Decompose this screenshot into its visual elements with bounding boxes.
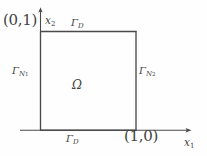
boundary-label-top-dirichlet: ΓD (71, 18, 84, 30)
boundary-label-left-neumann: ΓN1 (12, 66, 29, 78)
axis-label-x1: x1 (184, 137, 194, 150)
axis-x2-group (38, 7, 42, 31)
boundary-label-left-subsubscript: 1 (25, 71, 29, 77)
boundary-label-right-neumann: ΓN2 (139, 66, 156, 78)
boundary-label-top-gamma: Γ (71, 17, 78, 28)
boundary-label-bottom-dirichlet: ΓD (66, 134, 79, 146)
boundary-label-bottom-gamma: Γ (66, 133, 73, 144)
boundary-label-top-subscript: D (78, 22, 84, 30)
coordinate-label-top-left: (0,1) (3, 13, 37, 28)
axis-label-x2: x2 (45, 15, 55, 28)
domain-figure: (0,1) x2 ΓD ΓN1 Ω ΓN2 ΓD (1,0) x1 (0, 0, 207, 156)
boundary-label-left-gamma: Γ (12, 65, 19, 76)
boundary-label-right-gamma: Γ (139, 65, 146, 76)
coordinate-label-bottom-right: (1,0) (124, 129, 158, 144)
axis-label-x1-subscript: 1 (190, 142, 194, 150)
domain-symbol-label: Ω (72, 79, 82, 91)
boundary-label-bottom-subscript: D (73, 138, 79, 146)
boundary-label-right-subsubscript: 2 (152, 71, 156, 77)
axis-label-x2-subscript: 2 (51, 20, 55, 28)
domain-square (40, 31, 137, 131)
